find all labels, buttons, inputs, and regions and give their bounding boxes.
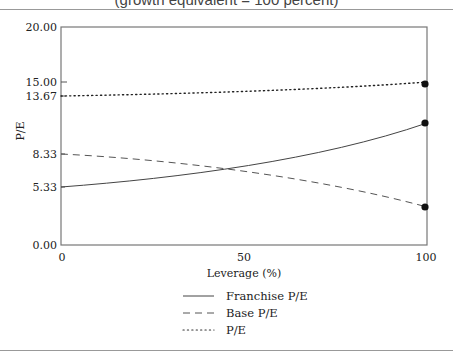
bottom-rule	[0, 350, 453, 351]
series-base-pe-line	[61, 154, 427, 207]
endpoint-marker-base	[421, 203, 428, 210]
x-axis-title: Leverage (%)	[207, 267, 281, 280]
y-tick-label: 8.33	[33, 148, 58, 161]
legend-label-pe: P/E	[226, 323, 246, 337]
y-tick-label: 0.00	[33, 239, 58, 252]
legend-label-base: Base P/E	[226, 306, 278, 320]
chart-area: 20.00 15.00 13.67 8.33 5.33 0.00 0 50 10…	[0, 0, 453, 352]
legend: Franchise P/E Base P/E P/E	[183, 289, 308, 337]
y-axis-title: P/E	[14, 121, 27, 140]
endpoint-marker-pe	[421, 80, 428, 87]
legend-label-franchise: Franchise P/E	[226, 289, 308, 303]
x-tick-label: 50	[237, 251, 251, 264]
y-tick-label: 5.33	[33, 181, 58, 194]
series-franchise-pe-line	[61, 123, 427, 187]
y-tick-label: 15.00	[26, 76, 58, 89]
plot-frame	[61, 27, 427, 245]
endpoint-marker-franchise	[421, 119, 428, 126]
y-tick-label: 20.00	[26, 21, 58, 34]
x-tick-label: 0	[59, 251, 66, 264]
x-tick-label: 100	[416, 251, 437, 264]
y-tick-label: 13.67	[26, 90, 58, 103]
series-pe-line	[61, 82, 427, 96]
